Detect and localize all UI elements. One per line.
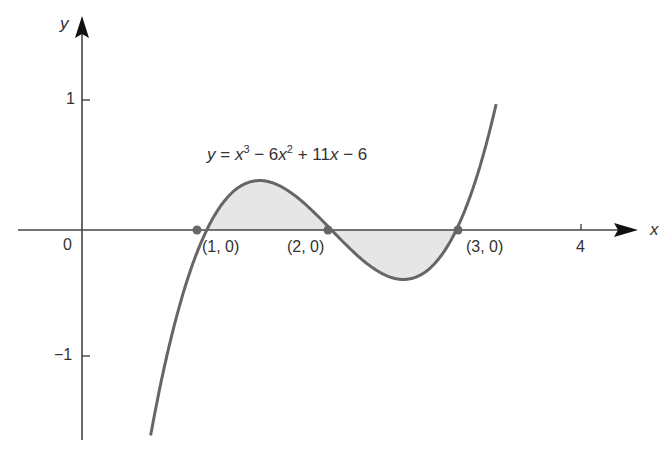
point-label-3: (3, 0) (466, 238, 503, 256)
point-label-2: (2, 0) (287, 238, 324, 256)
eq-equals: = (216, 145, 235, 164)
chart: y x 0 4 1 −1 (1, 0) (2, 0) (3, 0) y = x3… (0, 0, 669, 450)
eq-x3: x (330, 145, 339, 164)
equation-label: y = x3 − 6x2 + 11x − 6 (207, 143, 367, 165)
root-point-2 (324, 226, 333, 235)
x-tick-label-4: 4 (576, 238, 585, 256)
y-axis-label: y (60, 14, 69, 34)
point-label-1: (1, 0) (202, 238, 239, 256)
root-point-1 (193, 226, 202, 235)
y-tick-label-1: 1 (66, 90, 75, 108)
root-point-3 (454, 226, 463, 235)
eq-x2: x (278, 145, 287, 164)
origin-label: 0 (63, 236, 72, 254)
eq-t2: − 6 (250, 145, 279, 164)
y-tick-label-neg1: −1 (54, 346, 72, 364)
x-axis-label: x (650, 220, 659, 240)
plot-area (0, 0, 669, 450)
eq-t3: + 11 (293, 145, 330, 164)
eq-t4: − 6 (339, 145, 368, 164)
eq-y: y (207, 145, 216, 164)
